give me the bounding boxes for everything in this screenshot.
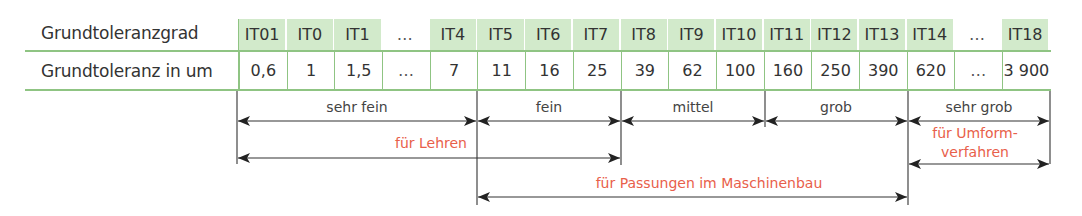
application-label-umform-line2: verfahren (932, 143, 1018, 162)
range-label-fein: fein (536, 99, 562, 115)
application-label-passungen: für Passungen im Maschinenbau (596, 174, 823, 193)
range-label-mittel: mittel (672, 99, 713, 115)
range-label-sehr-grob: sehr grob (946, 99, 1013, 115)
application-label-umform-line1: für Umform- (932, 124, 1018, 143)
application-label-lehren: für Lehren (395, 134, 467, 153)
range-label-grob: grob (820, 99, 852, 115)
range-label-sehr-fein: sehr fein (326, 99, 387, 115)
application-label-umformverfahren: für Umform- verfahren (932, 124, 1018, 162)
